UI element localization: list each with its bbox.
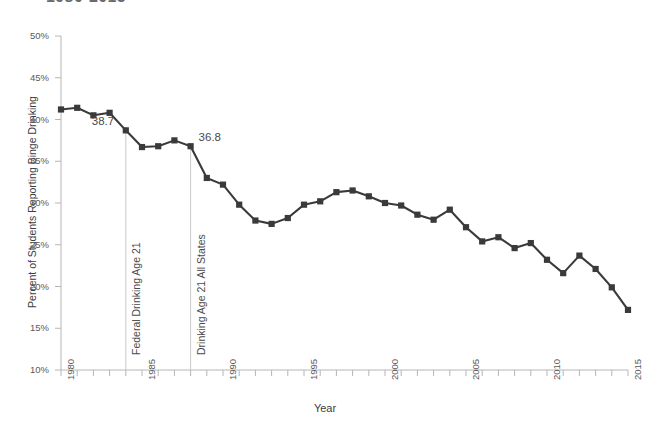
data-point-marker: [528, 240, 534, 246]
data-point-marker: [236, 202, 242, 208]
data-point-marker: [479, 238, 485, 244]
data-point-marker: [625, 307, 631, 313]
chart-title: 1980-2015: [46, 0, 126, 6]
y-axis-tick-label: 15%: [9, 322, 49, 333]
data-point-label: 36.8: [199, 131, 221, 143]
data-point-marker: [301, 202, 307, 208]
x-axis-tick-label: 1985: [146, 359, 157, 380]
data-point-marker: [139, 144, 145, 150]
y-axis-tick-label: 35%: [9, 155, 49, 166]
y-axis-tick-label: 45%: [9, 72, 49, 83]
x-axis-tick-label: 1995: [308, 359, 319, 380]
data-point-marker: [366, 193, 372, 199]
data-point-marker: [560, 270, 566, 276]
x-axis-tick-label: 2010: [551, 359, 562, 380]
data-point-marker: [333, 189, 339, 195]
data-point-marker: [58, 106, 64, 112]
data-point-marker: [447, 207, 453, 213]
data-point-marker: [414, 212, 420, 218]
data-point-marker: [544, 257, 550, 263]
data-point-marker: [74, 105, 80, 111]
annotation-label: Federal Drinking Age 21: [130, 242, 142, 355]
x-axis-tick-label: 2005: [470, 359, 481, 380]
data-point-marker: [463, 224, 469, 230]
x-axis-tick-label: 2015: [632, 359, 643, 380]
x-axis-tick-label: 1980: [65, 359, 76, 380]
data-point-marker: [220, 182, 226, 188]
y-axis-tick-label: 10%: [9, 364, 49, 375]
data-point-marker: [123, 127, 129, 133]
y-axis-tick-label: 50%: [9, 30, 49, 41]
data-point-marker: [317, 198, 323, 204]
data-point-marker: [495, 234, 501, 240]
x-axis-tick-label: 1990: [227, 359, 238, 380]
data-point-marker: [285, 215, 291, 221]
annotation-label: Drinking Age 21 All States: [195, 234, 207, 355]
data-point-marker: [350, 187, 356, 193]
data-point-marker: [382, 200, 388, 206]
data-point-marker: [593, 266, 599, 272]
y-axis-tick-label: 25%: [9, 239, 49, 250]
y-axis-tick-label: 40%: [9, 114, 49, 125]
series-line: [61, 108, 628, 310]
data-point-marker: [609, 284, 615, 290]
x-axis-title: Year: [0, 402, 650, 414]
data-point-marker: [155, 143, 161, 149]
data-point-label: 38.7: [92, 115, 114, 127]
data-point-marker: [269, 221, 275, 227]
data-point-marker: [512, 245, 518, 251]
y-axis-tick-label: 30%: [9, 197, 49, 208]
x-axis-tick-label: 2000: [389, 359, 400, 380]
binge-drinking-line-chart: 1980-2015 Percent of Students Reporting …: [0, 0, 650, 429]
data-point-marker: [204, 175, 210, 181]
data-point-marker: [188, 143, 194, 149]
data-point-marker: [171, 137, 177, 143]
data-point-marker: [398, 202, 404, 208]
y-axis-tick-label: 20%: [9, 281, 49, 292]
data-point-marker: [431, 217, 437, 223]
data-point-marker: [576, 253, 582, 259]
data-point-marker: [252, 217, 258, 223]
